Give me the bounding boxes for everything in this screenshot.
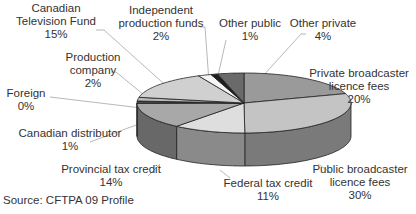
label-line: Federal tax credit [222,177,314,190]
label-percent: 2% [60,77,126,90]
label-line: Private broadcaster [303,67,415,80]
label-percent: 2% [113,30,209,43]
label-line: Foreign [6,87,46,100]
label-other-public: Other public 1% [218,17,282,43]
label-percent: 20% [303,93,415,106]
label-line: Canadian distributor [18,127,122,140]
label-line: licence fees [308,176,412,189]
label-line: Independent [113,4,209,17]
label-production-company: Production company 2% [60,51,126,90]
label-canadian-distributor: Canadian distributor 1% [18,127,122,153]
label-line: Television Fund [12,15,100,28]
label-percent: 4% [288,30,358,43]
label-line: company [60,64,126,77]
label-canadian-television-fund: Canadian Television Fund 15% [12,2,100,41]
label-percent: 1% [218,30,282,43]
label-independent-production-funds: Independent production funds 2% [113,4,209,43]
label-percent: 1% [18,140,122,153]
label-federal-tax-credit: Federal tax credit 11% [222,177,314,203]
label-private-broadcaster-licence-fees: Private broadcaster licence fees 20% [303,67,415,106]
label-other-private: Other private 4% [288,17,358,43]
label-line: production funds [113,17,209,30]
label-percent: 30% [308,189,412,202]
source-note: Source: CFTPA 09 Profile [3,194,134,206]
label-line: Other public [218,17,282,30]
label-percent: 15% [12,28,100,41]
label-percent: 14% [60,176,162,189]
label-public-broadcaster-licence-fees: Public broadcaster licence fees 30% [308,163,412,202]
label-line: Production [60,51,126,64]
label-percent: 0% [6,100,46,113]
label-line: Other private [288,17,358,30]
label-line: Canadian [12,2,100,15]
label-line: Provincial tax credit [60,163,162,176]
label-line: licence fees [303,80,415,93]
label-percent: 11% [222,190,314,203]
label-foreign: Foreign 0% [6,87,46,113]
label-line: Public broadcaster [308,163,412,176]
label-provincial-tax-credit: Provincial tax credit 14% [60,163,162,189]
